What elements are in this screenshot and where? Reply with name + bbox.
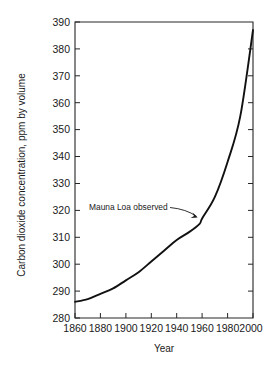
- y-tick-label: 350: [52, 123, 70, 135]
- x-tick-label: 1880: [89, 322, 113, 334]
- y-tick-label: 390: [52, 16, 70, 28]
- x-axis-title: Year: [154, 343, 175, 354]
- mauna-loa-annotation-label: Mauna Loa observed: [89, 202, 168, 212]
- y-tick-label: 300: [52, 258, 70, 270]
- x-tick-label: 1920: [140, 322, 164, 334]
- y-tick-label: 310: [52, 231, 70, 243]
- y-tick-label: 370: [52, 70, 70, 82]
- y-tick-label: 290: [52, 285, 70, 297]
- x-tick-label: 1900: [114, 322, 138, 334]
- y-axis-title: Carbon dioxide concentration, ppm by vol…: [16, 73, 27, 277]
- y-tick-label: 330: [52, 177, 70, 189]
- x-tick-label: 1980: [216, 322, 240, 334]
- x-tick-label: 1940: [165, 322, 189, 334]
- chart-canvas: 280 290 300 310 320 330 340 350 360 370 …: [0, 0, 270, 371]
- figure-background: [0, 0, 270, 371]
- x-tick-label: 1960: [190, 322, 214, 334]
- y-tick-label: 340: [52, 150, 70, 162]
- y-tick-label: 360: [52, 97, 70, 109]
- co2-concentration-figure: 280 290 300 310 320 330 340 350 360 370 …: [0, 0, 270, 371]
- x-tick-label: 1860: [63, 322, 87, 334]
- y-tick-label: 320: [52, 204, 70, 216]
- y-tick-label: 380: [52, 43, 70, 55]
- x-tick-label: 2000: [239, 322, 263, 334]
